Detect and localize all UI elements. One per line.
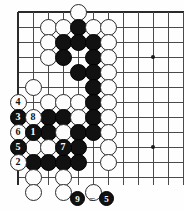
stone-black[interactable] <box>55 109 72 126</box>
grid-line-vertical <box>138 12 139 185</box>
stone-move-number: 6 <box>11 125 26 140</box>
stone-move-number: 7 <box>56 140 71 155</box>
caption-equals-sign: = <box>89 193 95 205</box>
star-point <box>151 55 155 59</box>
stone-white[interactable] <box>100 124 117 141</box>
stone-white[interactable] <box>40 94 57 111</box>
go-board[interactable]: 43861572 <box>0 0 184 185</box>
stone-white[interactable] <box>100 19 117 36</box>
stone-white[interactable] <box>100 64 117 81</box>
stone-white[interactable] <box>70 94 87 111</box>
stone-black[interactable] <box>40 109 57 126</box>
stone-black[interactable] <box>85 94 102 111</box>
stone-white[interactable] <box>100 49 117 66</box>
stone-black[interactable] <box>40 124 57 141</box>
stone-move-number: 1 <box>26 125 41 140</box>
stone-white[interactable] <box>25 79 42 96</box>
stone-white[interactable] <box>100 94 117 111</box>
stone-white[interactable] <box>100 34 117 51</box>
stone-black[interactable] <box>70 19 87 36</box>
stone-white[interactable] <box>55 94 72 111</box>
stone-move-7[interactable]: 7 <box>55 139 72 156</box>
stone-white[interactable] <box>55 19 72 36</box>
stone-black[interactable] <box>85 49 102 66</box>
stone-white[interactable] <box>70 4 87 21</box>
stone-black[interactable] <box>55 34 72 51</box>
stone-move-number: 5 <box>11 140 26 155</box>
grid-line-vertical <box>168 12 169 185</box>
stone-black[interactable] <box>85 34 102 51</box>
stone-white[interactable] <box>40 139 57 156</box>
stone-white[interactable] <box>40 34 57 51</box>
stone-move-4[interactable]: 4 <box>10 94 27 111</box>
stone-white[interactable] <box>100 79 117 96</box>
stone-black[interactable] <box>70 124 87 141</box>
stone-white[interactable] <box>100 139 117 156</box>
stone-black[interactable] <box>85 79 102 96</box>
stone-black[interactable] <box>70 34 87 51</box>
stone-move-number: 3 <box>11 110 26 125</box>
stone-white[interactable] <box>85 19 102 36</box>
grid-line-vertical <box>123 12 124 185</box>
stone-black[interactable] <box>70 154 87 171</box>
stone-move-1[interactable]: 1 <box>25 124 42 141</box>
stone-black[interactable] <box>25 154 42 171</box>
stone-move-number: 4 <box>11 95 26 110</box>
stone-black[interactable] <box>70 139 87 156</box>
stone-move-number: 2 <box>11 155 26 170</box>
grid-line-vertical <box>153 12 154 185</box>
grid-line-vertical <box>183 12 184 185</box>
stone-move-8[interactable]: 8 <box>25 109 42 126</box>
stone-white[interactable] <box>70 109 87 126</box>
stone-move-3[interactable]: 3 <box>10 109 27 126</box>
stone-white[interactable] <box>25 169 42 186</box>
stone-white[interactable] <box>40 49 57 66</box>
stone-white[interactable] <box>25 139 42 156</box>
go-diagram: 43861572 9 = 5 <box>0 0 184 211</box>
stone-move-number: 8 <box>26 110 41 125</box>
grid-line-horizontal <box>18 11 184 13</box>
stone-white[interactable] <box>100 109 117 126</box>
stone-white[interactable] <box>40 19 57 36</box>
stone-black[interactable] <box>40 154 57 171</box>
stone-move-2[interactable]: 2 <box>10 154 27 171</box>
stone-black[interactable] <box>85 64 102 81</box>
stone-black[interactable] <box>55 154 72 171</box>
grid-line-horizontal <box>18 177 184 178</box>
stone-move-6[interactable]: 6 <box>10 124 27 141</box>
caption-stone-move-5: 5 <box>99 191 114 206</box>
diagram-caption: 9 = 5 <box>0 186 184 211</box>
star-point <box>151 145 155 149</box>
stone-black[interactable] <box>70 64 87 81</box>
stone-white[interactable] <box>55 169 72 186</box>
stone-white[interactable] <box>55 124 72 141</box>
caption-stone-move-9: 9 <box>70 191 85 206</box>
stone-move-5[interactable]: 5 <box>10 139 27 156</box>
stone-black[interactable] <box>85 109 102 126</box>
stone-white[interactable] <box>100 154 117 171</box>
stone-black[interactable] <box>55 49 72 66</box>
stone-black[interactable] <box>85 124 102 141</box>
